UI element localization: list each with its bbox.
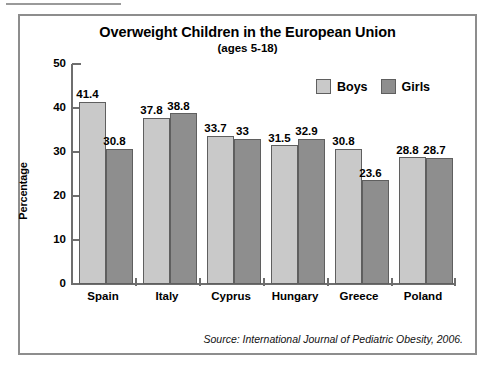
chart-legend: Boys Girls [316,79,430,94]
x-category-poland: Poland [391,290,455,302]
bar-spain-girls[interactable] [106,149,133,285]
plot-area: Percentage 50 40 30 20 10 0 [20,16,475,353]
value-greece-boys: 30.8 [321,135,366,147]
scan-artifact-line [6,3,121,5]
legend-item-girls[interactable]: Girls [381,79,431,94]
bar-italy-boys[interactable] [143,118,170,284]
bar-greece-girls[interactable] [362,180,389,284]
source-note: Source: International Journal of Pediatr… [203,333,463,345]
value-greece-girls: 23.6 [348,167,393,179]
y-tick-label-10: 10 [24,234,66,245]
chart-figure-frame: Overweight Children in the European Unio… [18,14,477,355]
bar-italy-girls[interactable] [170,113,197,284]
value-spain-girls: 30.8 [92,135,137,147]
x-category-hungary: Hungary [263,290,327,302]
value-poland-girls: 28.7 [412,144,457,156]
bar-poland-boys[interactable] [399,157,426,284]
bar-cyprus-boys[interactable] [207,136,234,284]
bar-spain-boys[interactable] [79,102,106,284]
bars-layer [73,64,456,284]
legend-swatch-girls-icon [381,79,396,94]
legend-swatch-boys-icon [316,79,331,94]
y-tick-label-20: 20 [24,190,66,201]
legend-item-boys[interactable]: Boys [316,79,368,94]
value-spain-boys: 41.4 [65,88,110,100]
y-tick-label-50: 50 [24,58,66,69]
bar-hungary-boys[interactable] [271,145,298,284]
y-tick-label-40: 40 [24,102,66,113]
value-italy-girls: 38.8 [156,100,201,112]
bar-hungary-girls[interactable] [298,139,325,284]
x-category-greece: Greece [327,290,391,302]
bar-poland-girls[interactable] [426,158,453,284]
x-category-cyprus: Cyprus [199,290,263,302]
x-category-italy: Italy [135,290,199,302]
legend-label-girls: Girls [402,80,431,94]
legend-label-boys: Boys [337,80,368,94]
y-tick-label-0: 0 [24,278,66,289]
y-tick-label-30: 30 [24,146,66,157]
x-category-spain: Spain [71,290,135,302]
bar-cyprus-girls[interactable] [234,139,261,284]
